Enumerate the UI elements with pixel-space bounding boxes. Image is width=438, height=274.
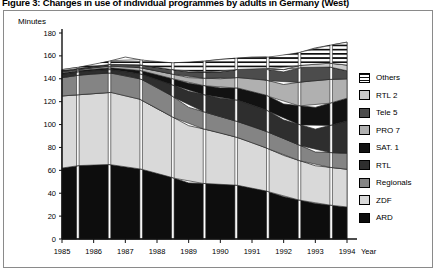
legend-item: Others	[359, 69, 435, 87]
series-column-segment	[269, 53, 298, 69]
series-column-segment	[79, 165, 108, 239]
x-tick-label: 1985	[54, 247, 71, 256]
x-tick-label: 1989	[180, 247, 197, 256]
series-column-segment	[111, 60, 140, 65]
y-tick-label: 140	[43, 74, 56, 83]
legend-item: RTL 2	[359, 87, 435, 105]
series-column-segment	[332, 168, 347, 207]
series-column-segment	[206, 58, 235, 72]
y-tick-label: 120	[43, 97, 56, 106]
series-column-segment	[111, 165, 140, 239]
series-column-segment	[174, 61, 203, 72]
legend-item: ARD	[359, 209, 435, 227]
legend-item: Tele 5	[359, 104, 435, 122]
legend-item: SAT. 1	[359, 139, 435, 157]
legend-item-label: RTL	[376, 161, 391, 170]
y-axis-ticks: 020406080100120140160180	[43, 29, 62, 244]
series-column-segment	[332, 153, 347, 170]
y-tick-label: 100	[43, 120, 56, 129]
legend-swatch-icon	[359, 125, 370, 135]
series-column-segment	[301, 161, 330, 205]
y-tick-label: 60	[48, 166, 56, 175]
series-column-segment	[206, 129, 235, 185]
legend-item: ZDF	[359, 192, 435, 210]
legend-item: Regionals	[359, 174, 435, 192]
series-column-segment	[174, 178, 203, 239]
series-column-segment	[62, 76, 77, 96]
series-column-segment	[79, 73, 108, 95]
y-tick-label: 180	[43, 29, 56, 38]
series-column-segment	[332, 205, 347, 239]
legend-swatch-icon	[359, 195, 370, 205]
x-tick-label: 1994	[339, 247, 356, 256]
x-tick-label: 1992	[275, 247, 292, 256]
legend-swatch-icon	[359, 213, 370, 223]
legend-item-label: ZDF	[376, 196, 392, 205]
figure-title: Figure 3: Changes in use of individual p…	[2, 0, 436, 8]
legend-swatch-icon	[359, 178, 370, 188]
series-column-segment	[62, 166, 77, 239]
legend-item-label: SAT. 1	[376, 143, 399, 152]
legend-swatch-icon	[359, 73, 370, 83]
legend-item: RTL	[359, 157, 435, 175]
series-column-segment	[206, 78, 235, 88]
x-tick-label: 1986	[85, 247, 102, 256]
legend-swatch-icon	[359, 160, 370, 170]
series-column-segment	[79, 93, 108, 166]
series-column-segment	[62, 95, 77, 168]
series-column-segment	[301, 200, 330, 239]
series-column-segment	[237, 57, 266, 69]
x-axis-ticks: 1985198619871988198919901991199219931994	[54, 239, 356, 256]
series-column-segment	[237, 185, 266, 239]
series-column-segment	[332, 42, 347, 65]
x-axis-unit-label: Year	[361, 247, 377, 256]
x-tick-label: 1990	[212, 247, 229, 256]
series-areas	[62, 42, 347, 239]
y-tick-label: 80	[48, 143, 56, 152]
chart-frame: Minutes 020406080100120140160180 1985198…	[3, 10, 433, 268]
series-column-segment	[301, 79, 330, 105]
series-column-segment	[332, 98, 347, 125]
x-tick-label: 1993	[307, 247, 324, 256]
series-column-segment	[111, 92, 140, 168]
y-tick-label: 20	[48, 212, 56, 221]
legend-swatch-icon	[359, 90, 370, 100]
legend: OthersRTL 2Tele 5PRO 7SAT. 1RTLRegionals…	[359, 69, 435, 227]
legend-swatch-icon	[359, 143, 370, 153]
y-tick-label: 40	[48, 189, 56, 198]
legend-item-label: ARD	[376, 213, 393, 222]
series-column-segment	[301, 67, 330, 82]
legend-item-label: Regionals	[376, 178, 412, 187]
x-tick-label: 1991	[244, 247, 261, 256]
series-column-segment	[206, 184, 235, 239]
legend-item-label: Tele 5	[376, 108, 397, 117]
series-column-segment	[332, 121, 347, 153]
legend-item: PRO 7	[359, 122, 435, 140]
legend-item-label: PRO 7	[376, 126, 400, 135]
y-tick-label: 160	[43, 51, 56, 60]
legend-item-label: RTL 2	[376, 91, 397, 100]
y-tick-label: 0	[52, 235, 56, 244]
legend-item-label: Others	[376, 73, 400, 82]
series-column-segment	[332, 79, 347, 103]
x-tick-label: 1988	[149, 247, 166, 256]
legend-swatch-icon	[359, 108, 370, 118]
series-column-segment	[142, 169, 171, 239]
x-tick-label: 1987	[117, 247, 134, 256]
